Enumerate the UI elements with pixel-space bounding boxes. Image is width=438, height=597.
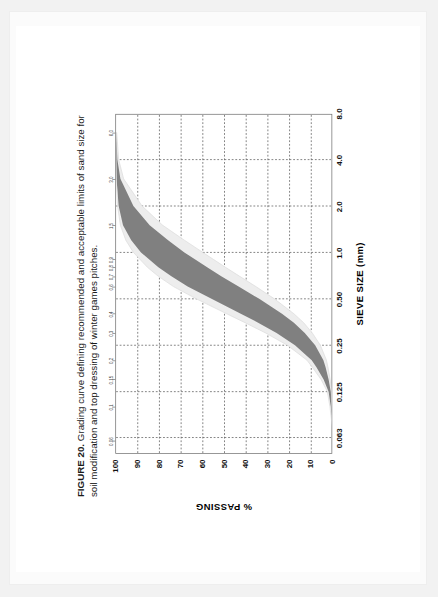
x-minor-tick-mark bbox=[112, 441, 115, 442]
y-tick-label: 20 bbox=[285, 460, 294, 469]
x-tick-label: 0.063 bbox=[335, 428, 344, 448]
x-minor-tick-mark bbox=[112, 360, 115, 361]
x-minor-tick-mark bbox=[112, 314, 115, 315]
x-minor-tick-mark bbox=[112, 225, 115, 226]
y-tick-label: 30 bbox=[263, 460, 272, 469]
y-tick-label: 10 bbox=[306, 460, 315, 469]
y-tick-label: 100 bbox=[111, 460, 120, 473]
figure-caption-text: Grading curve defining recommended and a… bbox=[76, 115, 100, 497]
x-tick-label: 0.50 bbox=[335, 292, 344, 307]
x-minor-tick-mark bbox=[112, 407, 115, 408]
y-tick-label: 50 bbox=[219, 460, 228, 469]
figure-number: FIGURE 20. bbox=[76, 444, 87, 497]
x-minor-tick-mark bbox=[112, 259, 115, 260]
plot-area bbox=[115, 114, 332, 454]
y-tick-label: 40 bbox=[241, 460, 250, 469]
grading-curve-chart: 0.0630.1250.250.501.02.04.08.0 0.060.10.… bbox=[115, 114, 332, 454]
plot-svg bbox=[116, 114, 332, 453]
x-tick-label: 1.0 bbox=[335, 248, 344, 259]
x-axis-title: SIEVE SIZE (mm) bbox=[354, 114, 365, 454]
x-minor-tick-mark bbox=[112, 276, 115, 277]
x-tick-label: 0.25 bbox=[335, 338, 344, 353]
x-tick-label: 8.0 bbox=[335, 108, 344, 119]
x-minor-tick-mark bbox=[112, 379, 115, 380]
figure-caption: FIGURE 20. Grading curve defining recomm… bbox=[75, 107, 101, 497]
y-tick-label: 60 bbox=[198, 460, 207, 469]
y-tick-label: 0 bbox=[328, 460, 337, 464]
paper-sheet: FIGURE 20. Grading curve defining recomm… bbox=[10, 12, 426, 584]
y-tick-label: 80 bbox=[154, 460, 163, 469]
y-tick-label: 70 bbox=[176, 460, 185, 469]
x-minor-tick-mark bbox=[112, 333, 115, 334]
x-minor-tick-mark bbox=[112, 132, 115, 133]
x-tick-label: 0.125 bbox=[335, 382, 344, 402]
x-minor-tick-mark bbox=[112, 287, 115, 288]
y-tick-label: 90 bbox=[133, 460, 142, 469]
x-tick-label: 4.0 bbox=[335, 155, 344, 166]
x-tick-label: 2.0 bbox=[335, 201, 344, 212]
x-minor-tick-mark bbox=[112, 179, 115, 180]
rotated-figure-stage: FIGURE 20. Grading curve defining recomm… bbox=[73, 97, 362, 502]
y-axis-title: % PASSING bbox=[196, 502, 252, 513]
scanned-page: FIGURE 20. Grading curve defining recomm… bbox=[0, 0, 438, 597]
x-minor-tick-mark bbox=[112, 267, 115, 268]
figure-area: FIGURE 20. Grading curve defining recomm… bbox=[16, 26, 420, 572]
